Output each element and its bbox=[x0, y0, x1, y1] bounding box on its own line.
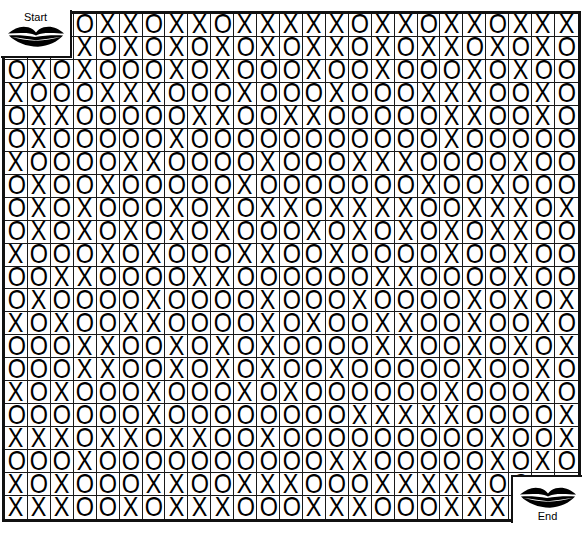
grid-cell[interactable]: X bbox=[372, 198, 395, 221]
grid-cell[interactable]: O bbox=[395, 496, 418, 519]
grid-cell[interactable]: X bbox=[555, 198, 578, 221]
grid-cell[interactable]: X bbox=[440, 404, 463, 427]
grid-cell[interactable]: O bbox=[97, 289, 120, 312]
grid-cell[interactable]: O bbox=[120, 404, 143, 427]
grid-cell[interactable]: X bbox=[395, 267, 418, 290]
grid-cell[interactable]: X bbox=[165, 129, 188, 152]
grid-cell[interactable]: O bbox=[463, 450, 486, 473]
grid-cell[interactable]: O bbox=[5, 106, 28, 129]
grid-cell[interactable]: X bbox=[234, 175, 257, 198]
grid-cell[interactable]: X bbox=[440, 221, 463, 244]
grid-cell[interactable]: O bbox=[143, 198, 166, 221]
grid-cell[interactable]: O bbox=[5, 267, 28, 290]
grid-cell[interactable]: O bbox=[165, 152, 188, 175]
grid-cell[interactable]: O bbox=[5, 335, 28, 358]
grid-cell[interactable]: X bbox=[486, 221, 509, 244]
grid-cell[interactable]: O bbox=[280, 289, 303, 312]
grid-cell[interactable]: X bbox=[143, 83, 166, 106]
grid-cell[interactable]: O bbox=[97, 60, 120, 83]
grid-cell[interactable]: X bbox=[303, 221, 326, 244]
grid-cell[interactable]: X bbox=[555, 427, 578, 450]
grid-cell[interactable]: X bbox=[28, 129, 51, 152]
grid-cell[interactable]: O bbox=[188, 404, 211, 427]
grid-cell[interactable]: O bbox=[211, 473, 234, 496]
grid-cell[interactable]: X bbox=[211, 221, 234, 244]
grid-cell[interactable]: O bbox=[532, 335, 555, 358]
grid-cell[interactable]: O bbox=[188, 289, 211, 312]
grid-cell[interactable]: O bbox=[234, 267, 257, 290]
grid-cell[interactable]: X bbox=[555, 335, 578, 358]
grid-cell[interactable]: O bbox=[486, 14, 509, 37]
grid-cell[interactable]: O bbox=[418, 221, 441, 244]
grid-cell[interactable]: X bbox=[326, 37, 349, 60]
grid-cell[interactable]: O bbox=[120, 267, 143, 290]
grid-cell[interactable]: O bbox=[326, 129, 349, 152]
grid-cell[interactable]: O bbox=[532, 60, 555, 83]
grid-cell[interactable]: O bbox=[97, 404, 120, 427]
grid-cell[interactable]: X bbox=[349, 289, 372, 312]
grid-cell[interactable]: X bbox=[51, 496, 74, 519]
grid-cell[interactable]: O bbox=[234, 37, 257, 60]
grid-cell[interactable]: O bbox=[418, 244, 441, 267]
grid-cell[interactable]: O bbox=[234, 358, 257, 381]
grid-cell[interactable]: O bbox=[51, 60, 74, 83]
grid-cell[interactable]: O bbox=[418, 60, 441, 83]
grid-cell[interactable]: O bbox=[532, 244, 555, 267]
grid-cell[interactable]: O bbox=[303, 289, 326, 312]
grid-cell[interactable]: O bbox=[143, 14, 166, 37]
grid-cell[interactable]: O bbox=[349, 312, 372, 335]
grid-cell[interactable]: X bbox=[257, 37, 280, 60]
grid-cell[interactable]: X bbox=[372, 404, 395, 427]
grid-cell[interactable]: O bbox=[5, 198, 28, 221]
grid-cell[interactable]: X bbox=[5, 83, 28, 106]
grid-cell[interactable]: O bbox=[372, 358, 395, 381]
grid-cell[interactable]: X bbox=[257, 312, 280, 335]
grid-cell[interactable]: O bbox=[120, 381, 143, 404]
grid-cell[interactable]: O bbox=[234, 312, 257, 335]
grid-cell[interactable]: X bbox=[211, 335, 234, 358]
grid-cell[interactable]: X bbox=[120, 312, 143, 335]
grid-cell[interactable]: O bbox=[486, 106, 509, 129]
grid-cell[interactable]: X bbox=[395, 14, 418, 37]
grid-cell[interactable]: X bbox=[5, 473, 28, 496]
grid-cell[interactable]: O bbox=[211, 450, 234, 473]
grid-cell[interactable]: O bbox=[395, 175, 418, 198]
grid-cell[interactable]: O bbox=[418, 427, 441, 450]
grid-cell[interactable]: X bbox=[74, 60, 97, 83]
grid-cell[interactable]: O bbox=[486, 152, 509, 175]
grid-cell[interactable]: O bbox=[257, 83, 280, 106]
grid-cell[interactable]: X bbox=[257, 358, 280, 381]
grid-cell[interactable]: X bbox=[303, 37, 326, 60]
grid-cell[interactable]: O bbox=[165, 175, 188, 198]
grid-cell[interactable]: O bbox=[97, 198, 120, 221]
grid-cell[interactable]: X bbox=[280, 381, 303, 404]
grid-cell[interactable]: O bbox=[326, 335, 349, 358]
grid-cell[interactable]: O bbox=[395, 106, 418, 129]
grid-cell[interactable]: O bbox=[372, 289, 395, 312]
grid-cell[interactable]: O bbox=[280, 404, 303, 427]
grid-cell[interactable]: O bbox=[418, 496, 441, 519]
grid-cell[interactable]: X bbox=[349, 496, 372, 519]
grid-cell[interactable]: O bbox=[74, 404, 97, 427]
grid-cell[interactable]: O bbox=[326, 106, 349, 129]
grid-cell[interactable]: O bbox=[555, 381, 578, 404]
grid-cell[interactable]: X bbox=[463, 473, 486, 496]
grid-cell[interactable]: O bbox=[486, 381, 509, 404]
grid-cell[interactable]: X bbox=[440, 14, 463, 37]
grid-cell[interactable]: X bbox=[97, 244, 120, 267]
grid-cell[interactable]: X bbox=[303, 14, 326, 37]
grid-cell[interactable]: O bbox=[188, 152, 211, 175]
grid-cell[interactable]: X bbox=[120, 221, 143, 244]
grid-cell[interactable]: X bbox=[28, 221, 51, 244]
grid-cell[interactable]: O bbox=[418, 358, 441, 381]
grid-cell[interactable]: O bbox=[165, 244, 188, 267]
grid-cell[interactable]: O bbox=[120, 129, 143, 152]
grid-cell[interactable]: X bbox=[463, 358, 486, 381]
grid-cell[interactable]: O bbox=[532, 152, 555, 175]
grid-cell[interactable]: O bbox=[234, 404, 257, 427]
grid-cell[interactable]: X bbox=[165, 358, 188, 381]
grid-cell[interactable]: X bbox=[486, 198, 509, 221]
grid-cell[interactable]: X bbox=[97, 335, 120, 358]
grid-cell[interactable]: O bbox=[486, 358, 509, 381]
grid-cell[interactable]: O bbox=[349, 106, 372, 129]
